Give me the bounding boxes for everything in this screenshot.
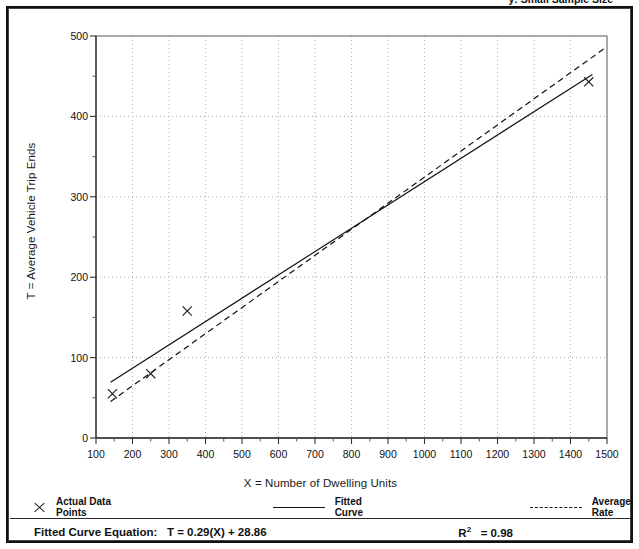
legend-item: Average Rate (530, 496, 631, 518)
legend-swatch-dashed (530, 501, 582, 513)
caption-right-text: y: Small Sample Size (509, 0, 613, 5)
x-tick-label: 400 (197, 448, 215, 460)
x-tick-label: 700 (306, 448, 324, 460)
figure-frame-inner: T = Average Vehicle Trip Ends X = Number… (8, 8, 631, 541)
y-tick-label: 200 (50, 271, 88, 283)
x-axis-title: X = Number of Dwelling Units (9, 477, 632, 489)
equation-value: T = 0.29(X) + 28.86 (167, 526, 267, 538)
chart-legend: Actual Data PointsFitted CurveAverage Ra… (10, 496, 631, 518)
x-tick-label: 1500 (595, 448, 618, 460)
chart-area: T = Average Vehicle Trip Ends X = Number… (9, 9, 632, 491)
legend-label: Fitted Curve (335, 496, 370, 518)
y-tick-label: 400 (50, 110, 88, 122)
x-tick-label: 1000 (413, 448, 436, 460)
average-rate-line (111, 47, 607, 402)
legend-item: Fitted Curve (273, 496, 370, 518)
fitted-curve-equation: Fitted Curve Equation: T = 0.29(X) + 28.… (34, 526, 267, 538)
r-squared-value: R2 = 0.98 (458, 525, 513, 539)
equation-bar: Fitted Curve Equation: T = 0.29(X) + 28.… (10, 519, 631, 545)
data-point-marker (108, 389, 117, 398)
x-tick-label: 600 (270, 448, 288, 460)
x-tick-label: 1200 (486, 448, 509, 460)
y-axis-title: T = Average Vehicle Trip Ends (25, 121, 37, 321)
x-tick-label: 800 (343, 448, 361, 460)
legend-swatch-solid (273, 501, 325, 513)
r-squared-label: R (458, 527, 466, 539)
figure-frame: T = Average Vehicle Trip Ends X = Number… (6, 6, 633, 543)
x-tick-label: 900 (379, 448, 397, 460)
x-tick-label: 100 (87, 448, 105, 460)
scatter-plot-canvas (9, 9, 632, 491)
data-point-group (108, 77, 594, 398)
legend-swatch-marker (32, 501, 48, 513)
data-point-marker (584, 77, 593, 86)
x-tick-label: 1100 (450, 448, 473, 460)
r-squared-exponent: 2 (467, 525, 471, 534)
x-tick-label: 200 (124, 448, 142, 460)
x-tick-label: 500 (233, 448, 251, 460)
data-point-marker (146, 369, 155, 378)
x-tick-label: 1300 (522, 448, 545, 460)
y-tick-label: 300 (50, 191, 88, 203)
y-tick-label: 0 (50, 432, 88, 444)
y-tick-label: 100 (50, 352, 88, 364)
r-squared-number: = 0.98 (481, 527, 513, 539)
tick-marks (90, 36, 607, 444)
data-point-marker (183, 306, 192, 315)
legend-label: Average Rate (592, 496, 631, 518)
y-tick-label: 500 (50, 30, 88, 42)
legend-label: Actual Data Points (56, 496, 123, 518)
x-tick-label: 300 (160, 448, 178, 460)
equation-label: Fitted Curve Equation: (34, 526, 157, 538)
x-tick-label: 1400 (559, 448, 582, 460)
gridlines (96, 36, 607, 438)
legend-item: Actual Data Points (32, 496, 123, 518)
